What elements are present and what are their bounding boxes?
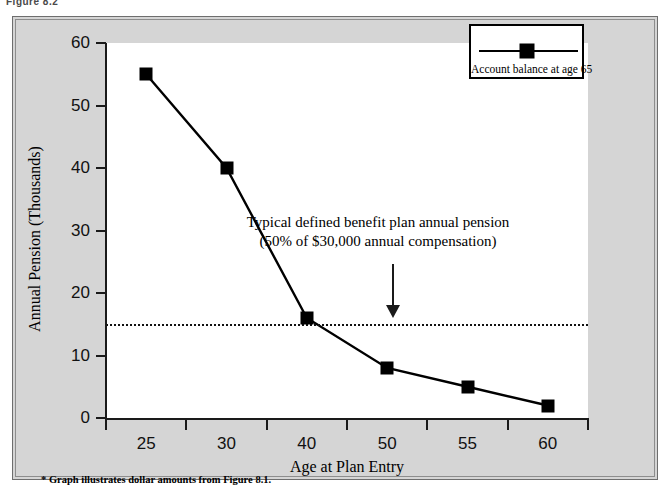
x-axis-tick (185, 420, 187, 430)
down-arrow-shaft (392, 264, 394, 308)
data-point-marker (461, 380, 474, 393)
data-point-marker (381, 362, 394, 375)
x-axis-tick (426, 420, 428, 430)
y-axis-tick-label: 50 (71, 96, 90, 116)
figure-footnote: * Graph illustrates dollar amounts from … (41, 474, 271, 485)
chart-panel: 0102030405060 253040505560 Annual Pensio… (12, 16, 658, 480)
y-axis-tick-label: 20 (71, 283, 90, 303)
x-axis-tick-label: 25 (137, 434, 156, 454)
y-axis-tick-label: 60 (71, 33, 90, 53)
x-axis-tick (105, 420, 107, 430)
chart-legend: Account balance at age 65 (469, 24, 584, 79)
figure-caption: Figure 8.2 (6, 0, 58, 7)
x-axis-tick (346, 420, 348, 430)
legend-label: Account balance at age 65 (471, 63, 582, 75)
y-axis-tick (96, 417, 106, 419)
y-axis-tick-label: 10 (71, 346, 90, 366)
x-axis-tick (266, 420, 268, 430)
x-axis-tick-label: 40 (297, 434, 316, 454)
y-axis-tick (96, 292, 106, 294)
y-axis-tick-label: 40 (71, 158, 90, 178)
data-point-marker (300, 312, 313, 325)
y-axis-title: Annual Pension (Thousands) (26, 146, 44, 332)
annotation-line-2: (50% of $30,000 annual compensation) (247, 232, 510, 251)
y-axis-tick (96, 105, 106, 107)
x-axis-tick-label: 60 (538, 434, 557, 454)
y-axis-tick (96, 355, 106, 357)
y-axis-tick-label: 30 (71, 221, 90, 241)
threshold-annotation: Typical defined benefit plan annual pens… (247, 213, 510, 251)
x-axis-tick-label: 55 (458, 434, 477, 454)
data-point-marker (140, 68, 153, 81)
threshold-dotted-line (106, 324, 588, 326)
data-point-marker (541, 399, 554, 412)
x-axis-tick-label: 50 (378, 434, 397, 454)
y-axis-tick (96, 42, 106, 44)
x-axis-tick (587, 420, 589, 430)
x-axis-tick (507, 420, 509, 430)
x-axis-title: Age at Plan Entry (290, 458, 404, 476)
data-point-marker (220, 162, 233, 175)
down-arrow-icon (386, 305, 400, 318)
y-axis-tick (96, 230, 106, 232)
y-axis-tick-label: 0 (81, 408, 90, 428)
y-axis-line (105, 43, 107, 420)
x-axis-tick-label: 30 (217, 434, 236, 454)
annotation-line-1: Typical defined benefit plan annual pens… (247, 213, 510, 232)
filled-square-marker-icon (519, 44, 534, 59)
y-axis-tick (96, 167, 106, 169)
